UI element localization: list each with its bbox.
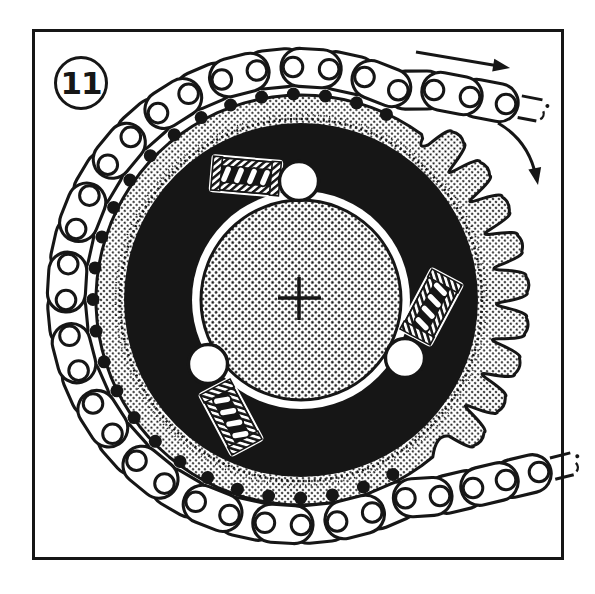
clutch-sprocket-figure: 11	[0, 0, 595, 594]
chain-pin	[58, 254, 78, 274]
chain-pin	[83, 394, 103, 414]
chain-pin	[319, 59, 339, 79]
chain-pin	[396, 488, 416, 508]
tooth-shadow	[326, 488, 339, 501]
tooth-shadow	[87, 293, 100, 306]
chain-pin	[155, 474, 175, 494]
tooth-shadow	[144, 149, 157, 162]
chain-pin	[121, 127, 141, 147]
clutch-roller	[280, 162, 319, 201]
tooth-shadow	[357, 481, 370, 494]
clutch-roller	[386, 339, 425, 378]
figure-label-badge: 11	[56, 58, 107, 109]
chain-pin	[291, 515, 311, 535]
chain-pin	[56, 290, 76, 310]
chain-pin	[355, 67, 375, 87]
tooth-shadow	[149, 435, 162, 448]
tooth-shadow	[255, 91, 268, 104]
tooth-shadow	[90, 325, 103, 338]
chain-pin	[496, 94, 516, 114]
chain-travel-arrow-shaft	[416, 52, 499, 66]
tooth-shadow	[386, 468, 399, 481]
chain-pin	[283, 57, 303, 77]
chain-pin	[220, 505, 240, 525]
chain-pin	[69, 361, 89, 381]
chain-pin	[127, 451, 147, 471]
tooth-shadow	[174, 455, 187, 468]
chain-pin	[66, 219, 86, 239]
chain-pin	[103, 424, 123, 444]
chain-pin	[186, 492, 206, 512]
rotation-arrow-head	[528, 167, 541, 185]
tooth-shadow	[89, 261, 102, 274]
tooth-shadow	[201, 471, 214, 484]
spring-end-cap	[211, 156, 223, 191]
tooth-shadow	[107, 201, 120, 214]
tooth-shadow	[319, 90, 332, 103]
chain-pin	[60, 326, 80, 346]
tooth-shadow	[195, 111, 208, 124]
figure-label-number: 11	[60, 65, 101, 101]
tooth-shadow	[95, 230, 108, 243]
chain-pin	[247, 61, 267, 81]
figure-11-panel: 11	[0, 0, 595, 594]
tooth-shadow	[294, 492, 307, 505]
chain-pin	[424, 80, 444, 100]
chain-travel-arrow-head	[492, 59, 510, 72]
tooth-shadow	[128, 411, 141, 424]
inner-hub	[201, 200, 401, 400]
rotation-arrow-shaft	[498, 123, 536, 177]
tooth-shadow	[380, 108, 393, 121]
chain-pin	[389, 80, 409, 100]
chain-broken-end	[550, 451, 583, 479]
chain-pin	[463, 478, 483, 498]
chain-pin	[255, 513, 275, 533]
chain-pin	[327, 512, 347, 532]
tooth-shadow	[287, 88, 300, 101]
chain-pin	[179, 84, 199, 104]
clutch-spring	[210, 155, 283, 197]
chain-pin	[148, 103, 168, 123]
tooth-shadow	[350, 96, 363, 109]
tooth-shadow	[231, 483, 244, 496]
tooth-shadow	[168, 128, 181, 141]
tooth-shadow	[98, 355, 111, 368]
tooth-shadow	[224, 99, 237, 112]
tooth-shadow	[110, 384, 123, 397]
chain-pin	[80, 186, 100, 206]
chain-pin	[362, 503, 382, 523]
clutch-roller	[189, 345, 228, 384]
chain-broken-end	[518, 96, 551, 123]
tooth-shadow	[262, 490, 275, 503]
chain-pin	[430, 486, 450, 506]
chain-pin	[98, 155, 118, 175]
chain-pin	[529, 462, 549, 482]
chain-pin	[212, 70, 232, 90]
chain-pin	[460, 87, 480, 107]
chain-pin	[496, 470, 516, 490]
tooth-shadow	[123, 174, 136, 187]
